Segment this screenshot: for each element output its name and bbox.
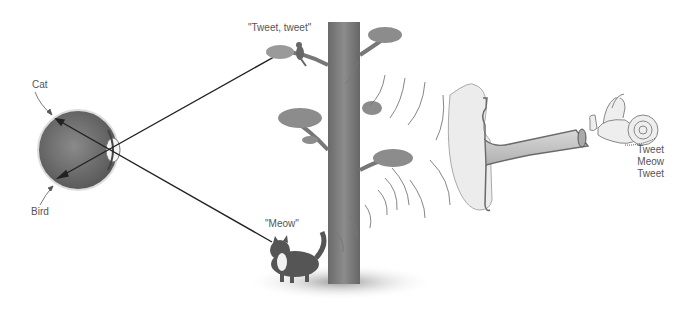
cat-speech-label: "Meow" bbox=[265, 218, 299, 229]
output-word-3: Tweet bbox=[620, 168, 664, 180]
output-word-2: Meow bbox=[620, 156, 664, 168]
bird-speech-label: "Tweet, tweet" bbox=[248, 22, 311, 33]
ear-illustration bbox=[448, 84, 588, 211]
bird-image-label: Bird bbox=[31, 206, 49, 217]
diagram-canvas bbox=[0, 0, 683, 319]
output-word-1: Tweet bbox=[620, 144, 664, 156]
inner-ear-output-labels: Tweet Meow Tweet bbox=[620, 144, 664, 180]
cat-image-label: Cat bbox=[32, 79, 48, 90]
inner-ear-illustration bbox=[590, 94, 658, 145]
